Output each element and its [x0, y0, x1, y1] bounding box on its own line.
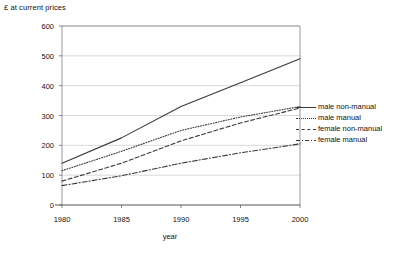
series-line: [62, 107, 300, 171]
series-line: [62, 144, 300, 186]
x-tick-label: 1990: [173, 215, 190, 224]
legend-item: female non-manual: [296, 123, 402, 134]
x-tick-label: 1985: [113, 215, 130, 224]
legend-item-label: male non-manual: [318, 102, 376, 112]
line-chart: £ at current prices 0100200300400500600 …: [0, 0, 405, 253]
x-axis-title: year: [0, 232, 340, 241]
legend-item: male manual: [296, 112, 402, 123]
legend-item-label: female manual: [318, 135, 367, 145]
legend-item: male non-manual: [296, 101, 402, 112]
x-tick-label: 2000: [292, 215, 309, 224]
chart-legend: male non-manualmale manualfemale non-man…: [296, 101, 402, 145]
legend-line-swatch-dotted: [296, 113, 316, 123]
legend-item-label: male manual: [318, 113, 361, 123]
legend-item-label: female non-manual: [318, 124, 382, 134]
legend-line-swatch-solid: [296, 102, 316, 112]
legend-line-swatch-dashed: [296, 124, 316, 134]
series-line: [62, 108, 300, 181]
gridlines: [62, 26, 300, 175]
legend-line-swatch-dashdot: [296, 135, 316, 145]
series-line: [62, 59, 300, 163]
legend-item: female manual: [296, 134, 402, 145]
x-tick-label: 1980: [54, 215, 71, 224]
series-lines: [62, 59, 300, 186]
x-tick-label: 1995: [232, 215, 249, 224]
